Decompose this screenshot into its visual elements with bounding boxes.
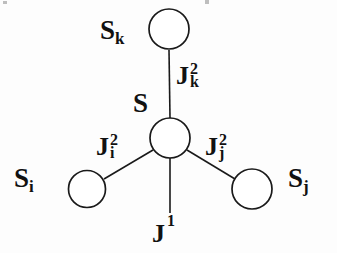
node-label-si-sub: i (29, 177, 34, 196)
node-label-s-center-base: S (133, 88, 148, 118)
node-s-i (69, 171, 106, 208)
node-label-si-base: S (14, 163, 29, 193)
coupling-label-j1-sup: 1 (167, 214, 175, 229)
coupling-label-j2i: J 2 i (96, 133, 118, 160)
coupling-label-j2k-sub: k (190, 75, 199, 90)
node-label-sj-sub: j (303, 177, 309, 196)
coupling-label-j2j-sub: j (219, 146, 224, 161)
node-s-j (232, 169, 272, 209)
node-label-sj: Sj (288, 165, 309, 195)
node-s-k (149, 9, 189, 49)
node-label-sk: Sk (100, 17, 125, 47)
coupling-label-j1-base: J (152, 221, 165, 247)
node-label-sk-base: S (100, 15, 115, 45)
spin-coupling-diagram: Sk S Si Sj J 2 k J 2 i J 2 j J 1 (0, 0, 337, 253)
node-label-sk-sub: k (115, 29, 124, 48)
node-label-sj-base: S (288, 163, 303, 193)
coupling-label-j1: J 1 (152, 221, 175, 247)
coupling-label-j2k-base: J (176, 63, 189, 89)
node-label-si: Si (14, 165, 34, 195)
coupling-label-j2i-base: J (96, 134, 109, 160)
node-label-s-center: S (133, 90, 148, 120)
edge-center-to-sk (169, 50, 170, 118)
node-s-center (150, 118, 190, 158)
coupling-label-j2j: J 2 j (205, 133, 227, 160)
coupling-label-j2j-base: J (205, 134, 218, 160)
coupling-label-j2k: J 2 k (176, 62, 199, 89)
coupling-label-j2i-sub: i (110, 146, 114, 161)
